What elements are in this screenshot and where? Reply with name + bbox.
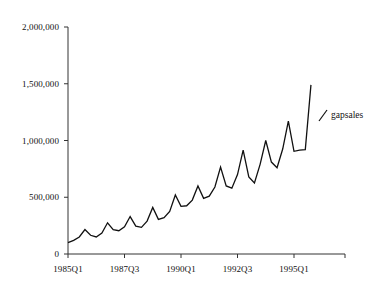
x-axis-ticks: [68, 254, 345, 258]
x-axis-tick-label: 1995Q1: [279, 264, 309, 274]
y-axis-tick-label: 2,000,000: [0, 22, 59, 32]
x-axis-tick-label: 1987Q3: [110, 264, 140, 274]
legend-line-marker: [319, 110, 327, 121]
y-axis-tick-label: 0: [0, 249, 59, 259]
x-axis-tick-label: 1985Q1: [53, 264, 83, 274]
y-axis-ticks: [64, 27, 68, 254]
x-axis-tick-label: 1992Q3: [223, 264, 253, 274]
x-axis-tick-label: 1990Q1: [166, 264, 196, 274]
y-axis-tick-label: 500,000: [0, 192, 59, 202]
series-line-gapsales: [68, 85, 311, 243]
data-series-group: [68, 85, 311, 243]
legend-item-gapsales: gapsales: [331, 110, 363, 121]
chart-container: 2,000,0001,500,0001,000,000500,0000 1985…: [0, 0, 390, 295]
y-axis-tick-label: 1,500,000: [0, 79, 59, 89]
y-axis-tick-label: 1,000,000: [0, 136, 59, 146]
